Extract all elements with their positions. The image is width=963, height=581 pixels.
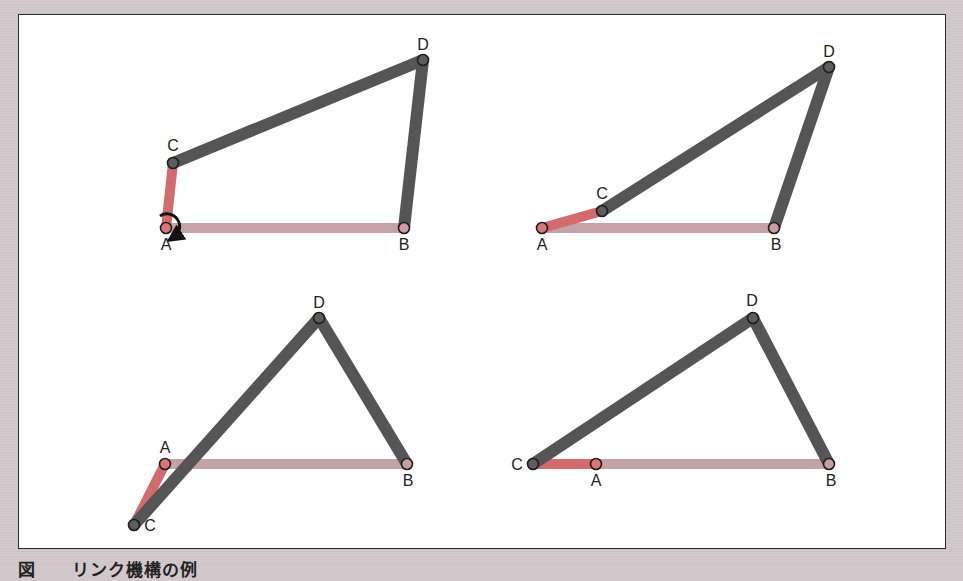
- joint-d: [748, 313, 759, 324]
- panel-bottom-right: ABCD: [511, 292, 836, 489]
- joint-a: [537, 223, 548, 234]
- label-d: D: [313, 294, 325, 311]
- label-c: C: [167, 137, 179, 154]
- joint-b: [399, 223, 410, 234]
- joint-c: [528, 459, 539, 470]
- label-d: D: [823, 43, 835, 60]
- panel-top-right: ABCD: [537, 43, 835, 253]
- coupler-link-cd: [602, 67, 829, 211]
- joint-a: [161, 223, 172, 234]
- panel-top-left: ABCD: [160, 36, 429, 253]
- label-c: C: [511, 456, 523, 473]
- rocker-link-bd: [319, 318, 407, 464]
- rocker-link-bd: [753, 318, 829, 464]
- joint-a: [591, 459, 602, 470]
- label-d: D: [746, 292, 758, 309]
- figure-caption: 図 リンク機構の例: [18, 556, 198, 581]
- label-a: A: [160, 439, 171, 456]
- rocker-link-bd: [404, 60, 423, 228]
- joint-b: [769, 223, 780, 234]
- label-a: A: [161, 236, 172, 253]
- label-c: C: [144, 517, 156, 534]
- panel-bottom-left: ABCD: [129, 294, 414, 534]
- label-b: B: [399, 236, 410, 253]
- coupler-link-cd: [173, 60, 423, 163]
- joint-c: [168, 158, 179, 169]
- label-c: C: [596, 185, 608, 202]
- label-b: B: [826, 472, 837, 489]
- joint-b: [824, 459, 835, 470]
- coupler-link-cd: [533, 318, 753, 464]
- joint-d: [314, 313, 325, 324]
- label-b: B: [403, 472, 414, 489]
- joint-c: [597, 206, 608, 217]
- crank-link-ac: [166, 163, 173, 228]
- joint-c: [129, 520, 140, 531]
- joint-d: [824, 62, 835, 73]
- joint-a: [160, 459, 171, 470]
- label-a: A: [537, 236, 548, 253]
- joint-b: [402, 459, 413, 470]
- label-a: A: [591, 472, 602, 489]
- label-b: B: [771, 236, 782, 253]
- coupler-link-cd: [134, 318, 319, 525]
- label-d: D: [417, 36, 429, 53]
- joint-d: [418, 55, 429, 66]
